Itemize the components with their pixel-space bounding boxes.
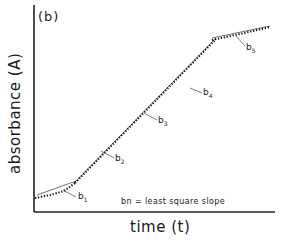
slope-label-b3: b3 [158, 115, 168, 127]
slope-label-b5: b5 [246, 42, 256, 54]
data-dots [35, 27, 270, 198]
slope-label-b4: b4 [203, 87, 213, 99]
slope-label-b1: b1 [78, 191, 88, 203]
y-axis-label: absorbance (A) [6, 64, 24, 174]
slope-label-b2: b2 [115, 153, 125, 165]
slope-legend-note: bn = least square slope [121, 197, 225, 206]
panel-label: (b) [38, 9, 59, 24]
label-leaders [63, 36, 245, 197]
x-axis-label: time (t) [130, 218, 190, 236]
fit-lines [37, 26, 270, 195]
